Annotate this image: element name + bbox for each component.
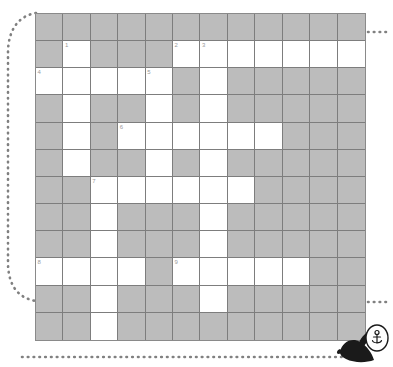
grid-cell-open[interactable]: [173, 123, 200, 150]
grid-cell-open[interactable]: [146, 95, 173, 122]
grid-cell-open[interactable]: [255, 258, 282, 285]
grid-cell-block: [255, 14, 282, 41]
grid-cell-block: [91, 95, 118, 122]
grid-cell-open[interactable]: [200, 150, 227, 177]
grid-cell-open[interactable]: [146, 150, 173, 177]
grid-cell-open[interactable]: [228, 123, 255, 150]
grid-cell-open[interactable]: [118, 68, 145, 95]
grid-cell-open[interactable]: [200, 95, 227, 122]
grid-cell-block: [283, 177, 310, 204]
grid-cell-open[interactable]: [283, 258, 310, 285]
grid-cell-block: [36, 14, 63, 41]
grid-cell-open[interactable]: [63, 258, 90, 285]
grid-cell-block: [228, 313, 255, 340]
grid-cell-open[interactable]: [200, 68, 227, 95]
grid-cell-open[interactable]: [255, 123, 282, 150]
grid-cell-open[interactable]: [63, 123, 90, 150]
grid-cell-block: [173, 14, 200, 41]
grid-cell-open[interactable]: [310, 41, 337, 68]
grid-cell-open[interactable]: [91, 286, 118, 313]
grid-cell-block: [36, 313, 63, 340]
grid-cell-open[interactable]: [118, 177, 145, 204]
grid-cell-open[interactable]: [91, 313, 118, 340]
grid-cell-block: [36, 204, 63, 231]
grid-cell-number: 1: [65, 41, 68, 49]
grid-cell-block: [173, 150, 200, 177]
grid-cell-block: [283, 150, 310, 177]
grid-cell-block: [283, 123, 310, 150]
crossword-grid[interactable]: 123456789: [35, 13, 366, 341]
grid-cell-open[interactable]: [200, 286, 227, 313]
grid-cell-open[interactable]: [91, 204, 118, 231]
grid-cell-block: [173, 95, 200, 122]
grid-cell-block: [283, 14, 310, 41]
grid-cell-open[interactable]: [63, 95, 90, 122]
grid-cell-open[interactable]: 7: [91, 177, 118, 204]
grid-cell-open[interactable]: [91, 68, 118, 95]
grid-cell-open[interactable]: [338, 41, 365, 68]
grid-cell-block: [255, 95, 282, 122]
grid-cell-block: [228, 231, 255, 258]
grid-cell-block: [63, 313, 90, 340]
grid-cell-block: [63, 14, 90, 41]
grid-cell-block: [283, 286, 310, 313]
grid-cell-open[interactable]: [200, 258, 227, 285]
grid-cell-block: [283, 313, 310, 340]
grid-cell-block: [36, 286, 63, 313]
grid-cell-open[interactable]: [91, 231, 118, 258]
grid-cell-open[interactable]: [146, 123, 173, 150]
grid-cell-open[interactable]: [228, 258, 255, 285]
grid-cell-block: [255, 204, 282, 231]
grid-cell-block: [310, 123, 337, 150]
grid-cell-open[interactable]: 4: [36, 68, 63, 95]
grid-cell-open[interactable]: 5: [146, 68, 173, 95]
grid-cell-open[interactable]: [255, 41, 282, 68]
grid-cell-open[interactable]: [118, 258, 145, 285]
grid-cell-block: [200, 14, 227, 41]
grid-cell-block: [338, 14, 365, 41]
grid-cell-block: [36, 177, 63, 204]
grid-cell-block: [338, 95, 365, 122]
grid-cell-open[interactable]: 1: [63, 41, 90, 68]
grid-cell-block: [310, 177, 337, 204]
grid-cell-block: [118, 313, 145, 340]
grid-cell-block: [228, 95, 255, 122]
grid-cell-open[interactable]: [200, 231, 227, 258]
grid-cell-block: [338, 231, 365, 258]
grid-cell-block: [36, 150, 63, 177]
grid-cell-block: [255, 177, 282, 204]
grid-cell-open[interactable]: [146, 177, 173, 204]
grid-cell-open[interactable]: 9: [173, 258, 200, 285]
grid-cell-block: [338, 313, 365, 340]
grid-cell-block: [338, 150, 365, 177]
grid-cell-block: [200, 313, 227, 340]
grid-cell-open[interactable]: 2: [173, 41, 200, 68]
grid-cell-open[interactable]: 6: [118, 123, 145, 150]
grid-cell-open[interactable]: [283, 41, 310, 68]
grid-cell-open[interactable]: [200, 177, 227, 204]
grid-cell-block: [228, 204, 255, 231]
grid-cell-block: [283, 204, 310, 231]
grid-cell-number: 6: [120, 123, 123, 131]
grid-cell-block: [63, 286, 90, 313]
grid-cell-block: [118, 41, 145, 68]
grid-cell-open[interactable]: [200, 123, 227, 150]
grid-cell-open[interactable]: [63, 68, 90, 95]
grid-cell-block: [228, 68, 255, 95]
grid-cell-block: [310, 286, 337, 313]
grid-cell-open[interactable]: [228, 41, 255, 68]
grid-cell-block: [146, 41, 173, 68]
grid-cell-block: [173, 204, 200, 231]
grid-cell-block: [118, 150, 145, 177]
grid-cell-block: [310, 150, 337, 177]
grid-cell-open[interactable]: [63, 150, 90, 177]
grid-cell-open[interactable]: [173, 177, 200, 204]
grid-cell-open[interactable]: [228, 177, 255, 204]
grid-cell-open[interactable]: [91, 258, 118, 285]
grid-cell-block: [63, 204, 90, 231]
grid-cell-block: [255, 286, 282, 313]
grid-cell-open[interactable]: 8: [36, 258, 63, 285]
grid-cell-number: 5: [147, 68, 150, 76]
grid-cell-open[interactable]: [200, 204, 227, 231]
grid-cell-open[interactable]: 3: [200, 41, 227, 68]
